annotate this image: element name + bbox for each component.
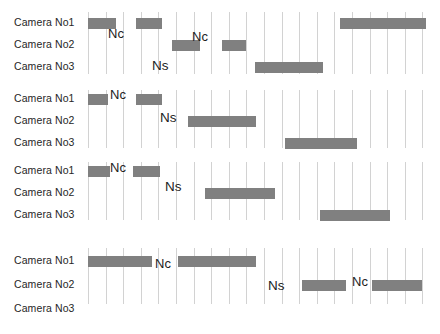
annotation-nc-label: Nc [352,275,368,289]
gridline [317,248,318,304]
gridline [422,90,423,148]
gridline [194,162,195,220]
row-label-column: Camera No1Camera No2Camera No3 [0,162,82,220]
plot-area [82,12,440,74]
timeline-bar-camera-no1 [88,166,110,177]
timeline-bar-camera-no3 [285,138,357,149]
annotation-ns-label: Ns [152,59,169,73]
row-label-column: Camera No1Camera No2Camera No3 [0,248,82,304]
gridline [405,90,406,148]
plot-area [82,90,440,148]
row-label-camera-no1: Camera No1 [14,165,90,176]
annotation-ns-label: Ns [268,279,285,293]
gridline [405,162,406,220]
row-label-column: Camera No1Camera No2Camera No3 [0,90,82,148]
timeline-bar-camera-no2 [372,280,422,291]
annotation-nc-label: Nc [110,88,126,102]
gridline [422,162,423,220]
plot-area [82,162,440,220]
timeline-bar-camera-no1 [340,18,426,29]
gridline [405,248,406,304]
gridline [264,248,265,304]
annotation-nc-label: Nc [110,161,126,175]
annotation-ns-label: Ns [160,111,177,125]
row-label-camera-no1: Camera No1 [14,93,90,104]
gridline [282,162,283,220]
timeline-bar-camera-no1 [88,256,152,267]
gridline [123,12,124,74]
timeline-bar-camera-no2 [222,40,246,51]
camera-timeline-diagram: Camera No1Camera No2Camera No3Camera No1… [0,0,440,334]
timeline-block: Camera No1Camera No2Camera No3 [0,162,440,220]
gridline [422,248,423,304]
gridline [264,90,265,148]
gridline [246,12,247,74]
gridline [317,162,318,220]
gridline [370,248,371,304]
row-label-camera-no1: Camera No1 [14,17,90,28]
row-label-camera-no2: Camera No2 [14,187,90,198]
row-label-column: Camera No1Camera No2Camera No3 [0,12,82,74]
row-label-camera-no3: Camera No3 [14,303,90,314]
timeline-bar-camera-no2 [302,280,346,291]
timeline-block: Camera No1Camera No2Camera No3 [0,12,440,74]
timeline-bar-camera-no3 [255,62,323,73]
gridline [176,248,177,304]
timeline-bar-camera-no1 [178,256,256,267]
row-label-camera-no2: Camera No2 [14,279,90,290]
timeline-bar-camera-no1 [88,94,108,105]
row-label-camera-no3: Camera No3 [14,209,90,220]
timeline-bar-camera-no1 [133,166,160,177]
gridline [282,90,283,148]
row-label-camera-no3: Camera No3 [14,137,90,148]
gridline [387,90,388,148]
timeline-bar-camera-no2 [188,116,256,127]
timeline-block: Camera No1Camera No2Camera No3 [0,248,440,304]
timeline-bar-camera-no1 [136,94,162,105]
timeline-bar-camera-no2 [205,188,275,199]
gridline [387,248,388,304]
annotation-nc-label: Nc [192,30,208,44]
gridline [370,90,371,148]
row-label-camera-no2: Camera No2 [14,115,90,126]
gridline [334,248,335,304]
gridline [299,162,300,220]
row-label-camera-no1: Camera No1 [14,255,90,266]
gridline [299,248,300,304]
plot-area [82,248,440,304]
gridline [334,12,335,74]
annotation-nc-label: Nc [155,257,171,271]
timeline-bar-camera-no3 [320,210,390,221]
row-label-camera-no2: Camera No2 [14,39,90,50]
gridline [282,248,283,304]
row-label-camera-no3: Camera No3 [14,61,90,72]
timeline-bar-camera-no1 [136,18,162,29]
timeline-block: Camera No1Camera No2Camera No3 [0,90,440,148]
annotation-ns-label: Ns [165,180,182,194]
gridline [211,12,212,74]
annotation-nc-label: Nc [108,27,124,41]
